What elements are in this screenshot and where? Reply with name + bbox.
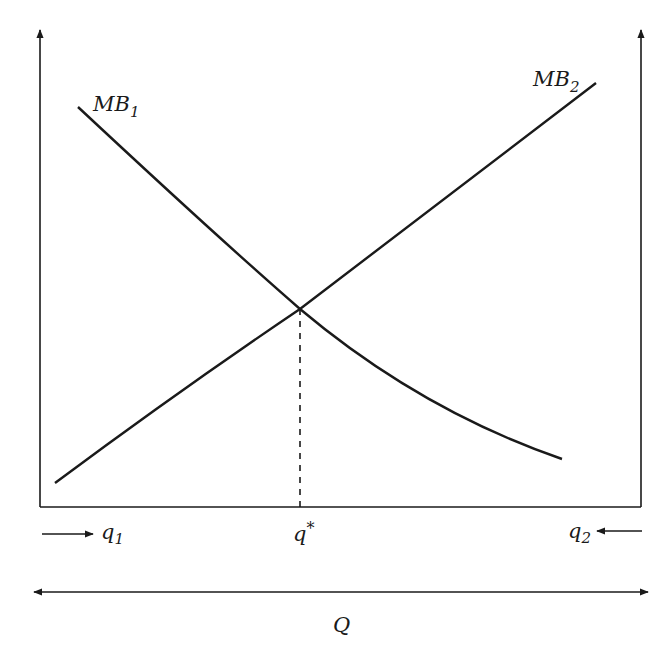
mb2-label: MB2 bbox=[532, 67, 579, 96]
total-q-label: Q bbox=[333, 613, 350, 637]
mb-diagram: MB1 MB2 q1 q* q2 Q bbox=[0, 0, 672, 655]
q2-label: q2 bbox=[568, 519, 591, 547]
mb1-curve bbox=[78, 107, 562, 459]
q-star-label: q* bbox=[293, 519, 314, 546]
mb1-label: MB1 bbox=[92, 92, 139, 121]
mb2-curve bbox=[55, 83, 596, 483]
q1-label: q1 bbox=[101, 520, 124, 548]
